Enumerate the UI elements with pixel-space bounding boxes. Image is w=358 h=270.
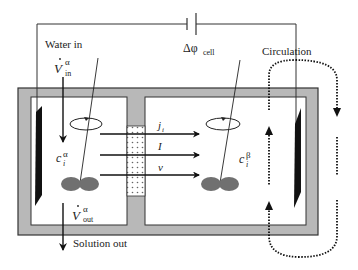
svg-text:Δφ: Δφ bbox=[183, 41, 198, 55]
svg-text:α: α bbox=[63, 149, 68, 159]
svg-text:c: c bbox=[56, 151, 62, 165]
membrane bbox=[127, 126, 145, 196]
right-chamber-beta bbox=[145, 97, 306, 225]
solution-out-label: Solution out bbox=[73, 237, 127, 249]
svg-text:out: out bbox=[83, 215, 94, 224]
svg-text:c: c bbox=[239, 152, 245, 166]
svg-text:β: β bbox=[246, 150, 251, 160]
svg-text:in: in bbox=[65, 69, 71, 78]
svg-text:i: i bbox=[162, 126, 164, 134]
circulation-label: Circulation bbox=[262, 45, 312, 57]
svg-text:V: V bbox=[54, 61, 64, 76]
circulation-arrowhead-down-icon bbox=[333, 108, 341, 117]
svg-text:i: i bbox=[63, 159, 65, 168]
svg-text:cell: cell bbox=[203, 48, 215, 57]
electrodialysis-diagram: Water in V α in Δφ cell Circulation c i … bbox=[0, 0, 358, 270]
flux-label-v: v bbox=[158, 161, 163, 173]
left-electrode bbox=[35, 106, 42, 206]
left-chamber-alpha bbox=[31, 97, 127, 225]
water-in-label: Water in bbox=[45, 38, 83, 50]
delta-phi-label: Δφ cell bbox=[183, 41, 215, 57]
svg-text:i: i bbox=[246, 160, 248, 169]
svg-text:α: α bbox=[65, 57, 70, 67]
v-in-label: V α in bbox=[54, 57, 71, 78]
svg-text:α: α bbox=[83, 204, 88, 214]
